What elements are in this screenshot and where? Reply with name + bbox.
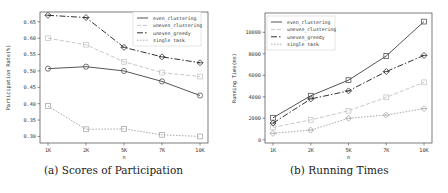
x-tick-label: 2K (83, 147, 90, 153)
x-tick-label: 7K (159, 147, 166, 153)
uneven-greedy-marker (159, 54, 165, 60)
y-tick-label: 0.30 (24, 133, 37, 139)
y-tick-label: 6000 (249, 72, 262, 78)
uneven-greedy-marker (346, 88, 352, 94)
running-time-chart: 02000400060008000100001K2K5K7K10KnRunnin… (224, 0, 448, 160)
single-task-marker (270, 130, 276, 136)
y-tick-label: 4000 (249, 94, 262, 100)
y-tick-label: 0.55 (24, 51, 37, 57)
x-tick-label: 1K (270, 147, 277, 153)
y-tick-label: 0.35 (24, 117, 37, 123)
y-tick-label: 0.45 (24, 84, 37, 90)
caption-running-times: (b) Running Times (290, 164, 389, 176)
single-task-marker (346, 115, 352, 121)
series-single-task (46, 104, 203, 139)
caption-participation: (a) Scores of Participation (44, 164, 183, 176)
x-axis-label: n (122, 154, 125, 160)
single-task-marker (383, 112, 389, 118)
legend: even_clusteringuneven_clusteringuneven_g… (133, 12, 202, 46)
y-axis-label: Participation Rate(%) (5, 45, 12, 111)
y-tick-label: 0.40 (24, 101, 37, 107)
uneven-greedy-marker (45, 12, 51, 18)
single-task-marker (421, 106, 427, 112)
single-task-marker (308, 127, 314, 133)
participation-chart: 0.300.350.400.450.500.550.600.651K2K5K7K… (0, 0, 224, 160)
uneven-greedy-marker (421, 52, 427, 58)
x-tick-label: 1K (45, 147, 52, 153)
legend: even_clusteringuneven_clusteringuneven_g… (267, 16, 336, 50)
series-even-clustering (45, 64, 202, 98)
x-axis-label: n (347, 154, 350, 160)
y-tick-label: 0.50 (24, 68, 37, 74)
uneven-greedy-marker (197, 60, 203, 66)
x-tick-label: 10K (419, 147, 429, 153)
x-tick-label: 5K (345, 147, 352, 153)
uneven-greedy-marker (383, 69, 389, 75)
uneven-greedy-marker (83, 15, 89, 21)
y-tick-label: 0.65 (24, 19, 37, 25)
y-axis-label: Running Time(ms) (231, 53, 238, 103)
y-tick-label: 0 (258, 137, 261, 143)
y-tick-label: 10000 (245, 29, 261, 35)
x-tick-label: 7K (383, 147, 390, 153)
y-tick-label: 8000 (249, 51, 262, 57)
x-tick-label: 2K (308, 147, 315, 153)
x-tick-label: 10K (195, 147, 205, 153)
x-tick-label: 5K (121, 147, 128, 153)
y-tick-label: 0.60 (24, 35, 37, 41)
y-tick-label: 2000 (249, 115, 262, 121)
running-time-chart-canvas: 02000400060008000100001K2K5K7K10KnRunnin… (224, 0, 448, 160)
participation-chart-canvas: 0.300.350.400.450.500.550.600.651K2K5K7K… (0, 0, 224, 160)
